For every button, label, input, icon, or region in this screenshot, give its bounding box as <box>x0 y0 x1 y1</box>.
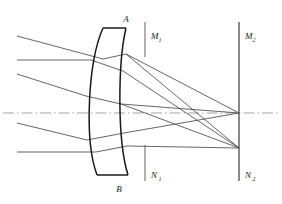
label-plane-bottom-N2: N 2 <box>244 170 256 182</box>
lens-front-surface <box>89 28 103 175</box>
ray-out-5-to-lower-focus <box>127 146 239 148</box>
ray-internal-4 <box>87 133 124 140</box>
label-plane-top-M2: M 2 <box>244 31 256 43</box>
ray-mid-oblique <box>17 74 86 96</box>
label-stop-top-M1-subscript: 1 <box>159 37 162 43</box>
label-stop-top-M1: M 1 <box>150 31 162 43</box>
label-stop-bottom-N1-subscript: 1 <box>159 176 162 182</box>
ray-out-3-to-axial-focus <box>121 104 239 113</box>
ray-internal-3 <box>86 96 121 104</box>
lens-back-surface <box>120 28 128 175</box>
ray-out-4-to-axial-focus <box>124 113 239 133</box>
ray-upper-oblique <box>17 36 103 59</box>
ray-internal-2 <box>91 60 123 71</box>
ray-out-7-crossing <box>121 104 239 148</box>
label-plane-bottom-N2-subscript: 2 <box>253 176 256 182</box>
ray-internal-1 <box>103 54 126 59</box>
ray-out-6-crossing <box>126 54 239 113</box>
optical-ray-diagram-svg: A B M 1 N 1 M 2 N 2 <box>0 0 282 204</box>
label-lens-bottom-B: B <box>116 184 122 194</box>
label-stop-bottom-N1-letter: N <box>150 170 158 180</box>
ray-lower-oblique <box>17 123 87 140</box>
label-stop-bottom-N1: N 1 <box>150 170 162 182</box>
label-plane-top-M2-subscript: 2 <box>253 37 256 43</box>
outgoing-rays-group <box>121 54 239 148</box>
label-lens-top-A: A <box>122 14 129 24</box>
optical-diagram-container: A B M 1 N 1 M 2 N 2 <box>0 0 282 204</box>
ray-out-1-to-lower-focus <box>126 54 239 148</box>
label-plane-bottom-N2-letter: N <box>244 170 252 180</box>
